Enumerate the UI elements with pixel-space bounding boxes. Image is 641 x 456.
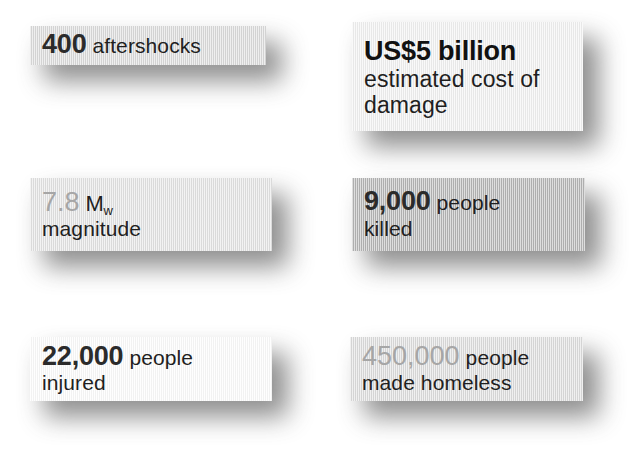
fact-card-injured: 22,000people injured xyxy=(30,337,272,401)
fact-line: US$5 billion xyxy=(364,36,573,67)
fact-value-homeless: 450,000 xyxy=(362,341,460,371)
fact-card-cost: US$5 billion estimated cost of damage xyxy=(352,22,583,131)
fact-label-injured-line-2: injured xyxy=(42,371,106,394)
fact-value-injured: 22,000 xyxy=(42,341,123,371)
fact-label-homeless-line-1: people xyxy=(466,346,530,369)
card-text: 400aftershocks xyxy=(42,29,256,60)
fact-line: estimated cost of xyxy=(364,66,573,92)
fact-line: magnitude xyxy=(42,217,262,241)
fact-label-homeless-line-2: made homeless xyxy=(362,371,512,394)
fact-value-aftershocks: 400 xyxy=(42,29,86,59)
card-text: 9,000people killed xyxy=(364,186,575,241)
fact-line: killed xyxy=(364,217,575,241)
fact-label-killed-line-1: people xyxy=(437,191,501,214)
fact-card-killed: 9,000people killed xyxy=(352,178,585,251)
fact-card-aftershocks: 400aftershocks xyxy=(30,26,266,65)
fact-line: 9,000people xyxy=(364,186,575,217)
fact-line: 22,000people xyxy=(42,341,262,372)
fact-line: 450,000people xyxy=(362,341,573,372)
fact-line: damage xyxy=(364,92,573,118)
fact-line: injured xyxy=(42,371,262,395)
fact-value-cost: US$5 billion xyxy=(364,36,516,66)
fact-unit-magnitude: Mw xyxy=(86,191,114,216)
fact-line: 400aftershocks xyxy=(42,29,256,60)
fact-label-injured-line-1: people xyxy=(129,346,193,369)
fact-label-killed-line-2: killed xyxy=(364,217,412,240)
fact-line: made homeless xyxy=(362,371,573,395)
magnitude-unit-symbol: M xyxy=(86,191,104,216)
card-text: 7.8Mw magnitude xyxy=(42,187,262,241)
fact-label-aftershocks: aftershocks xyxy=(92,34,200,57)
fact-line: 7.8Mw xyxy=(42,187,262,217)
infographic-fact-grid: 400aftershocks US$5 billion estimated co… xyxy=(0,0,641,456)
card-text: US$5 billion estimated cost of damage xyxy=(364,36,573,118)
fact-label-cost-line-2: damage xyxy=(364,92,448,118)
card-text: 450,000people made homeless xyxy=(362,341,573,396)
fact-card-magnitude: 7.8Mw magnitude xyxy=(30,178,272,251)
magnitude-unit-subscript: w xyxy=(103,203,113,218)
card-text: 22,000people injured xyxy=(42,341,262,396)
fact-card-homeless: 450,000people made homeless xyxy=(350,337,583,401)
fact-value-magnitude: 7.8 xyxy=(42,187,80,217)
fact-label-magnitude: magnitude xyxy=(42,217,141,240)
fact-label-cost-line-1: estimated cost of xyxy=(364,66,540,92)
fact-value-killed: 9,000 xyxy=(364,186,431,216)
